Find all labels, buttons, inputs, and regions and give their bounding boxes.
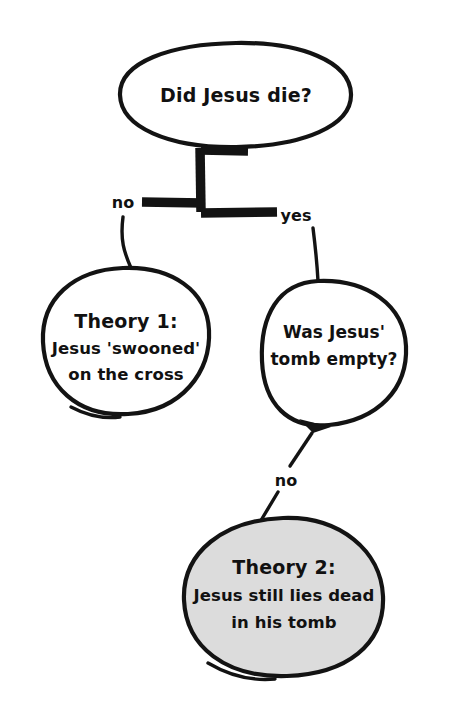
connector-yes-to-tomb: [313, 228, 318, 281]
edge-label-yes: yes: [281, 206, 312, 225]
theory1-line-2: Jesus 'swooned': [51, 339, 201, 358]
root-split-connector: [142, 148, 277, 213]
root-stem-cap: [201, 150, 248, 151]
decision-tree-diagram: Did Jesus die? no yes Theory 1: Jesus 's…: [0, 0, 471, 713]
node-theory1[interactable]: Theory 1: Jesus 'swooned' on the cross: [43, 268, 209, 418]
root-label: Did Jesus die?: [160, 84, 312, 106]
node-theory2[interactable]: Theory 2: Jesus still lies dead in his t…: [184, 518, 383, 680]
tomb-line-2: tomb empty?: [270, 349, 397, 369]
connector-no-to-theory2-upper: [290, 433, 312, 466]
theory1-line-1: Theory 1:: [74, 310, 177, 332]
edge-label-no-left: no: [112, 193, 134, 212]
theory2-line-2: Jesus still lies dead: [193, 586, 375, 605]
node-root[interactable]: Did Jesus die?: [120, 43, 351, 147]
theory2-line-3: in his tomb: [231, 613, 337, 632]
tomb-line-1: Was Jesus': [283, 322, 385, 342]
split-bar-left: [142, 202, 203, 203]
edge-label-no-lower: no: [275, 471, 297, 490]
split-bar-right: [201, 212, 277, 213]
theory1-line-3: on the cross: [68, 365, 184, 384]
theory2-line-1: Theory 2:: [232, 556, 335, 578]
connector-no-to-theory1: [122, 217, 131, 268]
flowchart-canvas: Did Jesus die? no yes Theory 1: Jesus 's…: [0, 0, 471, 713]
node-tomb-question[interactable]: Was Jesus' tomb empty?: [262, 281, 406, 433]
